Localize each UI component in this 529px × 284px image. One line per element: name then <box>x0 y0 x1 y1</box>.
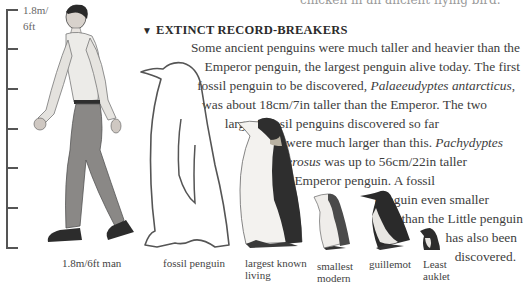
body-line-3: fossil penguin to be discovered, Palaeeu… <box>197 76 515 95</box>
species-name: Pachydyptes <box>435 135 503 150</box>
least-auklet-illustration <box>418 226 442 252</box>
emperor-penguin-illustration <box>230 110 310 255</box>
guillemot-illustration <box>358 186 416 254</box>
species-name: Palaeeudyptes antarcticus <box>370 78 511 93</box>
body-line-6: were much larger than this. Pachydyptes <box>286 133 503 152</box>
body-line-12: discovered. <box>455 247 516 266</box>
body-line-1: Some ancient penguins were much taller a… <box>191 38 520 57</box>
caption-guillemot: guillemot <box>369 258 411 270</box>
cutoff-text: chicken in an ancient flying bird. <box>300 0 501 7</box>
caption-fossil-penguin: fossil penguin <box>163 257 225 269</box>
man-illustration <box>0 0 150 255</box>
little-penguin-illustration <box>310 190 356 254</box>
fossil-penguin-illustration <box>135 55 235 255</box>
body-line-11: has also been <box>446 228 517 247</box>
caption-smallest-modern: smallest modern <box>317 260 353 284</box>
caption-largest-living: largest known living <box>245 257 307 281</box>
section-heading: ▼EXTINCT RECORD-BREAKERS <box>142 23 348 38</box>
body-line-2: Emperor penguin, the largest penguin ali… <box>205 57 520 76</box>
caption-least-auklet: Least auklet <box>423 258 450 282</box>
section-heading-text: EXTINCT RECORD-BREAKERS <box>156 23 348 37</box>
caption-man: 1.8m/6ft man <box>62 257 121 269</box>
